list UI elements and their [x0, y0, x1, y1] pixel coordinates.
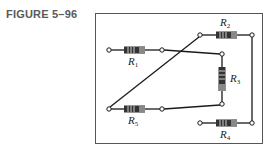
terminal-r4-right — [250, 121, 254, 125]
resistor-r5: R5 — [124, 106, 145, 129]
resistor-label-r5: R5 — [127, 114, 139, 128]
resistor-label-r4: R4 — [219, 128, 231, 142]
resistor-label-r2: R2 — [219, 16, 231, 30]
resistor-r2: R2 — [216, 16, 237, 39]
terminal-r5-right — [160, 107, 164, 111]
resistor-label-r1: R1 — [127, 55, 139, 69]
terminal-r1-right — [160, 48, 164, 52]
terminal-r4-left — [198, 121, 202, 125]
resistor-r4: R4 — [216, 120, 237, 143]
terminal-r1-left — [107, 48, 111, 52]
resistor-label-r3: R3 — [229, 72, 241, 86]
circuit-diagram: R1 R2 R3 R5 R4 — [0, 0, 270, 154]
terminal-r3-bottom — [220, 102, 224, 106]
terminal-r2-right — [250, 33, 254, 37]
terminal-r5-left — [107, 107, 111, 111]
resistor-r1: R1 — [124, 47, 145, 70]
terminal-r3-top — [220, 52, 224, 56]
terminal-r2-left — [198, 33, 202, 37]
resistor-r3: R3 — [219, 67, 241, 91]
